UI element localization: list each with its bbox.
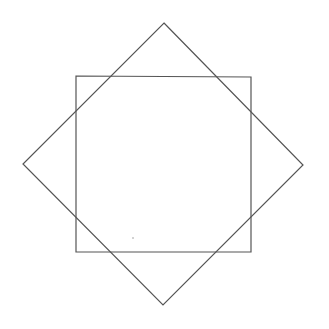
center-dot (132, 237, 134, 239)
rotated-square (23, 23, 303, 305)
upright-square (76, 76, 251, 252)
diagram-canvas (0, 0, 329, 329)
overlapping-squares-diagram (0, 0, 329, 329)
